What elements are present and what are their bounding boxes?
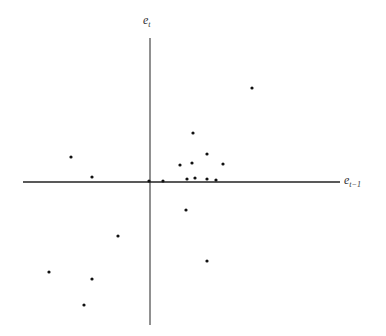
data-point <box>90 277 93 280</box>
data-point <box>69 155 72 158</box>
data-point <box>47 270 50 273</box>
data-point <box>205 152 208 155</box>
scatter-plot <box>0 0 386 336</box>
data-point <box>214 178 217 181</box>
data-point <box>193 176 196 179</box>
data-point <box>191 131 194 134</box>
data-point <box>184 208 187 211</box>
y-axis-label: et <box>143 14 151 29</box>
data-point <box>185 177 188 180</box>
data-point <box>178 163 181 166</box>
data-point <box>90 175 93 178</box>
data-point <box>116 234 119 237</box>
data-point <box>250 86 253 89</box>
data-point <box>82 303 85 306</box>
x-axis-label-sub: t−1 <box>349 180 361 189</box>
data-point <box>190 161 193 164</box>
y-axis-label-sub: t <box>148 20 150 29</box>
x-axis-label: et−1 <box>344 174 361 189</box>
data-point <box>161 179 164 182</box>
data-point <box>205 177 208 180</box>
data-point <box>221 162 224 165</box>
data-point <box>147 179 150 182</box>
data-point <box>205 259 208 262</box>
